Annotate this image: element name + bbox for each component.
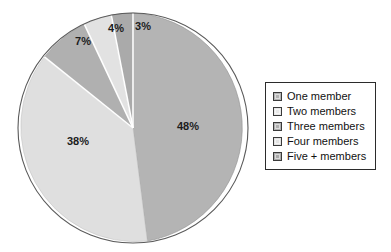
legend-swatch-icon	[273, 152, 282, 161]
pie-chart-figure: 48% 38% 7% 4% 3% One member Two members …	[0, 0, 391, 252]
legend-item-four-members[interactable]: Four members	[273, 134, 370, 149]
legend-item-label: Four members	[287, 135, 359, 148]
legend-item-three-members[interactable]: Three members	[273, 119, 370, 134]
legend-swatch-icon	[273, 122, 282, 131]
slice-label-three-members: 7%	[75, 35, 91, 47]
legend-item-label: One member	[287, 90, 351, 103]
slice-label-two-members: 38%	[67, 135, 89, 147]
slice-label-one-member: 48%	[177, 120, 199, 132]
slice-label-four-members: 4%	[108, 22, 124, 34]
legend-item-two-members[interactable]: Two members	[273, 104, 370, 119]
legend-swatch-icon	[273, 107, 282, 116]
chart-legend: One member Two members Three members Fou…	[265, 82, 376, 170]
legend-swatch-icon	[273, 137, 282, 146]
legend-item-label: Five + members	[287, 150, 366, 163]
slice-label-five-plus-members: 3%	[135, 20, 151, 32]
legend-item-one-member[interactable]: One member	[273, 89, 370, 104]
legend-item-label: Two members	[287, 105, 356, 118]
legend-item-five-plus-members[interactable]: Five + members	[273, 149, 370, 164]
legend-swatch-icon	[273, 92, 282, 101]
legend-item-label: Three members	[287, 120, 365, 133]
